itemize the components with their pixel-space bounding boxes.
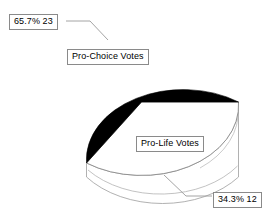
pie-chart-container: 65.7% 23 34.3% 12 Pro-Choice Votes Pro-L… bbox=[0, 0, 275, 222]
pie-chart-graphic bbox=[0, 0, 275, 222]
data-label-prochoice-percent[interactable]: 65.7% 23 bbox=[9, 14, 58, 30]
slice-label-prochoice[interactable]: Pro-Choice Votes bbox=[67, 49, 149, 65]
data-label-prolife-percent[interactable]: 34.3% 12 bbox=[213, 192, 262, 208]
slice-label-prolife[interactable]: Pro-Life Votes bbox=[136, 136, 204, 152]
leader-line-prochoice bbox=[66, 21, 108, 40]
